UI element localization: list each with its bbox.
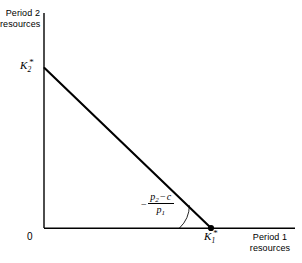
numerator-term: c <box>167 191 172 202</box>
vertical-intercept-superscript: * <box>29 57 34 67</box>
resource-constraint-figure: Period 2 resources Period 1 resources 0 … <box>0 0 302 263</box>
y-axis-title-line-2: resources <box>0 19 40 30</box>
slope-fraction: p2−c p1 <box>148 192 174 215</box>
horizontal-intercept-superscript: * <box>213 228 218 238</box>
x-axis-title: Period 1 resources <box>240 232 300 254</box>
fraction-denominator: p1 <box>155 204 167 215</box>
y-axis-title-line-1: Period 2 <box>0 8 40 19</box>
x-axis-title-line-1: Period 1 <box>240 232 300 243</box>
x-axis-title-line-2: resources <box>240 243 300 254</box>
fraction-numerator: p2−c <box>149 192 173 203</box>
horizontal-intercept-label: K1* <box>204 231 220 243</box>
figure-canvas <box>0 0 302 263</box>
denominator-subscript: 1 <box>162 209 166 217</box>
slope-annotation: − p2−c p1 <box>141 192 174 215</box>
origin-label: 0 <box>27 231 33 242</box>
slope-angle-arc <box>180 205 190 228</box>
numerator-operator: − <box>159 191 167 202</box>
resource-constraint-line <box>45 68 212 228</box>
numerator-subscript: 2 <box>155 196 159 204</box>
y-axis-title: Period 2 resources <box>0 8 40 30</box>
vertical-intercept-label: K2* <box>20 60 36 72</box>
slope-minus-sign: − <box>141 199 148 210</box>
denominator-variable: p <box>156 204 161 215</box>
